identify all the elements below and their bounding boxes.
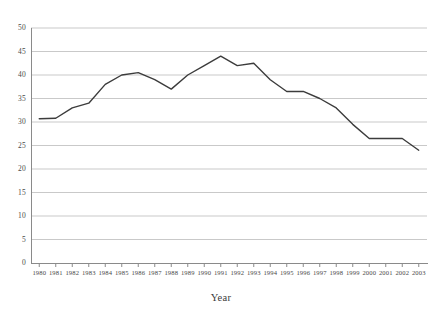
y-axis-tick-label: 45 xyxy=(4,48,26,56)
x-axis-tick-label: 1992 xyxy=(230,268,244,277)
x-axis-tick-label: 1999 xyxy=(346,268,360,277)
y-axis-tick-label: 20 xyxy=(4,165,26,173)
y-axis-tick-label: 0 xyxy=(4,259,26,267)
x-axis-tick-label: 1994 xyxy=(263,268,277,277)
y-axis-tick-label: 5 xyxy=(4,236,26,244)
x-axis-tick-label: 1982 xyxy=(65,268,79,277)
x-axis-tick-label: 1985 xyxy=(115,268,129,277)
x-axis-tick-label: 1996 xyxy=(296,268,310,277)
x-axis-tick-label: 1988 xyxy=(164,268,178,277)
y-axis-tick-label: 10 xyxy=(4,212,26,220)
y-axis-tick-label: 35 xyxy=(4,95,26,103)
x-axis-tick-label: 1995 xyxy=(280,268,294,277)
x-axis-tick-label: 1993 xyxy=(247,268,261,277)
x-axis-tick-label: 1980 xyxy=(32,268,46,277)
x-axis-tick-label: 1998 xyxy=(329,268,343,277)
x-axis-tick-label: 1981 xyxy=(49,268,63,277)
x-axis-tick-label: 2000 xyxy=(362,268,376,277)
y-axis-tick-label: 25 xyxy=(4,142,26,150)
x-axis-tick-label: 2003 xyxy=(412,268,426,277)
x-axis-tick-label: 1983 xyxy=(82,268,96,277)
data-line-svg xyxy=(31,28,427,263)
y-axis-tick-labels: 05101520253035404550 xyxy=(0,0,26,317)
y-axis-tick-label: 30 xyxy=(4,118,26,126)
x-axis-tick-label: 1997 xyxy=(313,268,327,277)
x-axis-tick-label: 1991 xyxy=(214,268,228,277)
x-axis-tick-label: 2002 xyxy=(395,268,409,277)
x-axis-tick-label: 1990 xyxy=(197,268,211,277)
x-axis-tick-label: 1989 xyxy=(181,268,195,277)
line-chart: 05101520253035404550 1980198119821983198… xyxy=(0,0,442,317)
y-axis-tick-label: 40 xyxy=(4,71,26,79)
x-axis-tick-label: 1984 xyxy=(98,268,112,277)
x-axis-tick-label: 1986 xyxy=(131,268,145,277)
x-axis-tick-labels: 1980198119821983198419851986198719881989… xyxy=(31,268,428,282)
x-axis-title: Year xyxy=(0,292,442,303)
x-axis-tick-label: 1987 xyxy=(148,268,162,277)
y-axis-tick-label: 15 xyxy=(4,189,26,197)
x-axis-tick-label: 2001 xyxy=(379,268,393,277)
y-axis-tick-label: 50 xyxy=(4,24,26,32)
data-line-series-1 xyxy=(39,56,419,150)
